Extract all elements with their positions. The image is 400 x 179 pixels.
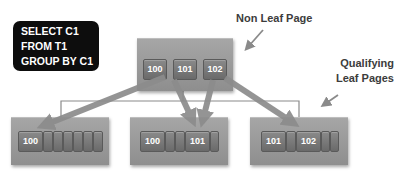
arrow-100-to-leaf1 — [45, 77, 165, 125]
arrow-102-to-leaf3 — [225, 78, 292, 122]
key-pointer-arrows — [0, 0, 400, 179]
arrow-101-to-leaf2-b — [203, 80, 213, 119]
arrow-101-to-leaf2-a — [174, 80, 192, 119]
